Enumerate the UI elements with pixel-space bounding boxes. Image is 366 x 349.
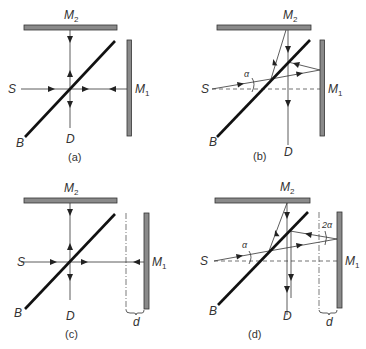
panel-c: M2 M1 S D B d (c) <box>14 181 167 340</box>
mirror-m2 <box>24 25 117 30</box>
label-source: S <box>201 82 209 96</box>
arrow-down-icon <box>67 36 73 43</box>
arrow-down-icon <box>284 286 290 293</box>
angle-arc <box>249 251 251 264</box>
label-m2: M2 <box>64 8 79 24</box>
return-beam-m1 <box>290 231 337 239</box>
arrow-down-icon <box>67 274 73 281</box>
label-angle: α <box>242 240 248 250</box>
arrow-right-icon <box>236 254 243 260</box>
label-beamsplitter: B <box>16 136 24 150</box>
label-beamsplitter: B <box>209 135 217 149</box>
arrow-down-icon <box>285 46 291 53</box>
arrow-right-icon <box>48 86 55 92</box>
arrow-left-icon <box>305 232 312 238</box>
mirror-m1 <box>144 213 149 309</box>
label-source: S <box>8 82 16 96</box>
arrow-right-icon <box>296 243 303 249</box>
label-displacement: d <box>326 315 333 329</box>
label-m1: M1 <box>135 82 150 98</box>
beamsplitter <box>217 40 310 137</box>
michelson-interferometer-figure: M2 M1 S D B (a) M2 M1 S α <box>0 0 366 349</box>
label-source: S <box>200 254 208 268</box>
label-beamsplitter: B <box>209 304 217 318</box>
caption-c: (c) <box>65 328 78 340</box>
caption-d: (d) <box>248 328 261 340</box>
mirror-m2 <box>217 25 311 30</box>
label-m2: M2 <box>283 8 298 24</box>
label-m2: M2 <box>64 181 79 197</box>
arrow-right-icon <box>237 82 244 88</box>
caption-a: (a) <box>68 151 81 163</box>
arrow-right-icon <box>82 86 89 92</box>
beamsplitter <box>218 212 308 305</box>
panel-b: M2 M1 S α D B (b) <box>201 8 343 162</box>
arrow-left-icon <box>293 62 300 68</box>
angle-arc-2x <box>325 231 327 245</box>
mirror-m1 <box>320 40 325 136</box>
arrow-up-icon <box>67 243 73 250</box>
mirror-m2 <box>215 198 310 203</box>
arrow-down-icon <box>288 274 294 281</box>
caption-b: (b) <box>253 150 266 162</box>
arrow-down-icon <box>67 101 73 108</box>
label-detector: D <box>284 145 293 159</box>
label-beamsplitter: B <box>14 306 22 320</box>
panel-a: M2 M1 S D B (a) <box>8 8 150 163</box>
return-beam-m1 <box>288 62 320 70</box>
arrow-left-icon <box>109 86 116 92</box>
mirror-m1 <box>127 40 132 136</box>
angle-arc <box>252 78 254 92</box>
label-detector: D <box>66 309 75 323</box>
label-displacement: d <box>133 315 140 329</box>
arrow-right-icon <box>50 259 57 265</box>
arrow-left-icon <box>133 259 140 265</box>
arrow-right-icon <box>296 72 303 78</box>
label-m1: M1 <box>152 255 167 271</box>
label-m1: M1 <box>328 82 343 98</box>
arrow-right-icon <box>81 259 88 265</box>
label-angle-2x: 2α <box>321 220 333 230</box>
label-detector: D <box>66 132 75 146</box>
mirror-m1 <box>337 212 342 308</box>
arrow-up-icon <box>67 70 73 77</box>
label-detector: D <box>283 309 292 323</box>
panel-d: M2 M1 S α 2α D B d (d) <box>200 180 360 340</box>
label-source: S <box>17 255 25 269</box>
arrow-down-icon <box>67 209 73 216</box>
mirror-m2 <box>24 198 117 203</box>
arrow-down-icon <box>285 100 291 107</box>
arrow-down-icon <box>284 212 290 219</box>
label-angle: α <box>244 69 250 79</box>
label-m1: M1 <box>345 254 360 270</box>
label-m2: M2 <box>280 180 295 196</box>
